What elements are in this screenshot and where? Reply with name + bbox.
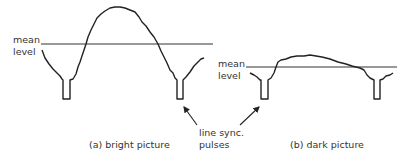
- mean-label-b-line1: mean: [218, 58, 245, 70]
- mean-level-label-a: mean level: [13, 34, 40, 58]
- arrow-to-sync-pulse-a: [184, 107, 197, 125]
- mean-label-a-line1: mean: [13, 34, 40, 46]
- waveform-a: [42, 7, 204, 99]
- panel-b-dark-picture: [246, 55, 397, 99]
- sync-pulses-label: line sync. pulses: [199, 127, 244, 151]
- mean-label-b-line2: level: [218, 70, 245, 82]
- mean-label-a-line2: level: [13, 46, 40, 58]
- mean-level-label-b: mean level: [218, 58, 245, 82]
- waveform-b: [250, 55, 393, 99]
- caption-a: (a) bright picture: [89, 139, 170, 151]
- sync-label-line1: line sync.: [199, 127, 244, 139]
- panel-a-bright-picture: [41, 7, 213, 99]
- sync-label-line2: pulses: [199, 139, 244, 151]
- caption-b: (b) dark picture: [290, 139, 364, 151]
- arrow-to-sync-pulse-b: [240, 107, 259, 125]
